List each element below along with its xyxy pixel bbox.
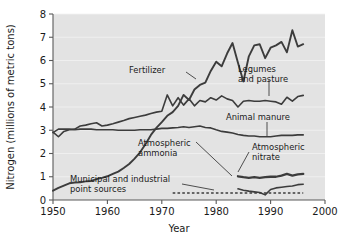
animal-manure-label: Animal manure (226, 112, 290, 122)
atmospheric-nitrate-label-line2: nitrate (252, 152, 280, 162)
x-axis-title: Year (167, 223, 190, 234)
atmospheric-ammonia-label-line2: ammonia (138, 148, 177, 158)
municipal-label-line1: Municipal and industrial (70, 174, 170, 184)
fertilizer-label: Fertilizer (129, 65, 166, 75)
y-tick-label-7: 7 (40, 32, 46, 43)
nitrogen-sources-chart-figure: 012345678 195019601970198019902000 Year … (0, 0, 349, 244)
y-axis-tick-labels: 012345678 (40, 9, 46, 206)
x-tick-label-1960: 1960 (95, 206, 120, 217)
y-tick-label-2: 2 (40, 148, 46, 159)
x-tick-label-2000: 2000 (312, 206, 337, 217)
x-tick-label-1950: 1950 (40, 206, 65, 217)
y-axis-title: Nitrogen (millions of metric tons) (5, 24, 16, 190)
y-tick-label-8: 8 (40, 9, 46, 20)
y-tick-label-4: 4 (40, 102, 46, 113)
x-tick-label-1970: 1970 (149, 206, 174, 217)
chart-canvas: 012345678 195019601970198019902000 Year … (0, 0, 349, 244)
y-tick-label-0: 0 (40, 195, 46, 206)
x-tick-label-1980: 1980 (203, 206, 228, 217)
y-tick-label-6: 6 (40, 55, 46, 66)
legumes-label-line1: Legumes (238, 64, 276, 74)
municipal-label-line2: point sources (70, 184, 126, 194)
y-tick-label-5: 5 (40, 78, 46, 89)
atmospheric-ammonia-label-line1: Atmospheric (138, 138, 191, 148)
atmospheric-nitrate-label-line1: Atmospheric (252, 142, 305, 152)
y-tick-label-3: 3 (40, 125, 46, 136)
y-tick-label-1: 1 (40, 171, 46, 182)
legumes-label-line2: and pasture (238, 74, 288, 84)
x-tick-label-1990: 1990 (258, 206, 283, 217)
